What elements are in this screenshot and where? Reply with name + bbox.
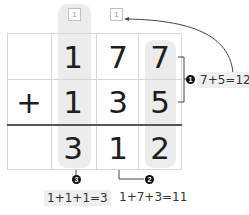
step-3-badge: 3 — [72, 175, 81, 184]
step-3-note: 1+1+1=3 — [44, 190, 111, 206]
step-1-note: 7+5=12 — [197, 72, 249, 88]
step-2-badge: 2 — [145, 175, 154, 184]
step-2-note: 1+7+3=11 — [119, 190, 187, 204]
connector-lines — [0, 0, 249, 215]
step-1-badge: 1 — [186, 75, 195, 84]
